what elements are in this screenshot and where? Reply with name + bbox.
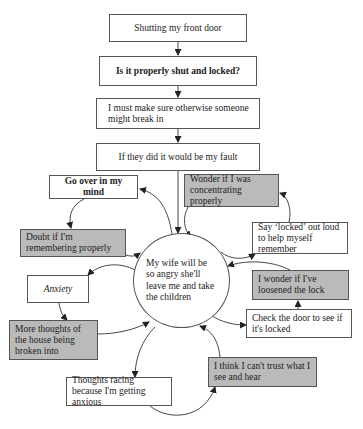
arrow-go-over-doubt — [70, 199, 84, 228]
arrow-center-anxiety — [88, 265, 135, 275]
node-wonder-concentrating: Wonder if I was concentrating properly — [184, 174, 279, 207]
node-doubt-remembering: Doubt if I'm remembering properly — [20, 229, 126, 257]
node-check-door: Check the door to see if it's locked — [246, 309, 352, 338]
arrow-center-racing — [135, 327, 155, 377]
arrow-doubt-center — [126, 253, 140, 256]
node-cant-trust: I think I can't trust what I see and hea… — [208, 357, 317, 387]
node-shutting-front-door: Shutting my front door — [109, 14, 247, 42]
node-label: Is it properly shut and locked? — [116, 66, 240, 77]
node-label: Shutting my front door — [134, 23, 221, 34]
node-loosened-lock: I wonder if I've loosened the lock — [252, 270, 349, 300]
node-label: Wonder if I was concentrating properly — [190, 174, 273, 207]
node-label: I think I can't trust what I see and hea… — [214, 361, 311, 383]
node-my-fault: If they did it would be my fault — [96, 143, 260, 171]
node-more-thoughts: More thoughts of the house being broken … — [9, 320, 98, 360]
node-label: If they did it would be my fault — [119, 152, 238, 163]
node-label: Go over in my mind — [55, 176, 132, 198]
arrow-say-wonder — [280, 193, 290, 222]
arrow-trust-center — [200, 326, 220, 357]
node-anxiety: Anxiety — [27, 275, 89, 303]
center-belief-circle: My wife will be so angry she'll leave me… — [133, 233, 230, 328]
node-label: I must make sure otherwise someone might… — [108, 103, 254, 125]
node-label: Anxiety — [44, 284, 72, 295]
node-label: Thoughts racing because I'm getting anxi… — [72, 375, 166, 408]
arrow-center-say — [221, 252, 255, 258]
arrow-center-go-over — [140, 189, 172, 234]
center-label: My wife will be so angry she'll leave me… — [146, 258, 217, 304]
arrow-more-center — [98, 322, 149, 334]
node-label: Say ‘locked’ out loud to help myself rem… — [258, 222, 342, 255]
arrow-center-check — [212, 316, 246, 325]
node-say-locked: Say ‘locked’ out loud to help myself rem… — [252, 222, 348, 254]
node-go-over-in-mind: Go over in my mind — [49, 175, 138, 199]
arrow-anxiety-more — [59, 303, 67, 320]
node-label: I wonder if I've loosened the lock — [258, 274, 343, 296]
node-must-make-sure: I must make sure otherwise someone might… — [96, 98, 260, 129]
node-label: Check the door to see if it's locked — [252, 313, 346, 335]
node-is-it-locked: Is it properly shut and locked? — [99, 56, 257, 86]
arrow-loosened-center — [228, 262, 290, 270]
node-thoughts-racing: Thoughts racing because I'm getting anxi… — [66, 377, 172, 406]
node-label: More thoughts of the house being broken … — [15, 324, 92, 357]
node-label: Doubt if I'm remembering properly — [26, 232, 120, 254]
